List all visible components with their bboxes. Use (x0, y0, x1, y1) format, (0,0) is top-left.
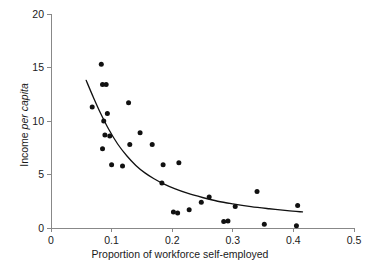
data-point-10 (120, 163, 125, 168)
y-tick-label-4: 20 (32, 8, 44, 20)
x-tick-label-3: 0.3 (225, 234, 240, 246)
data-point-8 (107, 133, 112, 138)
y-tick-label-2: 10 (32, 115, 44, 127)
data-point-28 (294, 223, 299, 228)
x-tick-label-2: 0.2 (165, 234, 180, 246)
scatter-plot: 00.10.20.30.40.5 05101520 Proportion of … (0, 0, 369, 269)
data-point-5 (105, 111, 110, 116)
y-tick-label-3: 15 (32, 61, 44, 73)
data-point-25 (233, 204, 238, 209)
y-tick-labels: 05101520 (32, 8, 44, 234)
y-axis-title: Income per capita (18, 83, 30, 167)
data-point-16 (161, 162, 166, 167)
data-point-15 (159, 181, 164, 186)
y-tick-label-1: 5 (38, 168, 44, 180)
data-points (90, 62, 300, 229)
data-point-27 (262, 222, 267, 227)
axes-group (47, 14, 354, 232)
data-point-6 (100, 146, 105, 151)
chart-figure: 00.10.20.30.40.5 05101520 Proportion of … (0, 0, 369, 269)
data-point-24 (225, 219, 230, 224)
data-point-17 (171, 209, 176, 214)
x-tick-label-1: 0.1 (104, 234, 119, 246)
x-tick-label-5: 0.5 (347, 234, 362, 246)
data-point-4 (101, 119, 106, 124)
data-point-9 (109, 162, 114, 167)
data-point-23 (221, 219, 226, 224)
fit-curve (86, 80, 302, 212)
data-point-3 (104, 82, 109, 87)
x-tick-labels: 00.10.20.30.40.5 (48, 234, 361, 246)
y-tick-label-0: 0 (38, 222, 44, 234)
data-point-20 (187, 207, 192, 212)
x-axis-title: Proportion of workforce self-employed (92, 248, 269, 260)
data-point-18 (175, 211, 180, 216)
data-point-11 (126, 100, 131, 105)
data-point-19 (176, 160, 181, 165)
x-tick-label-0: 0 (48, 234, 54, 246)
y-axis-title-plain: Income (18, 129, 30, 166)
data-point-13 (138, 130, 143, 135)
data-point-22 (207, 194, 212, 199)
y-axis-title-italic: per capita (18, 83, 30, 130)
regression-curve (86, 80, 302, 212)
data-point-21 (199, 200, 204, 205)
data-point-7 (102, 132, 107, 137)
data-point-14 (150, 142, 155, 147)
data-point-26 (255, 189, 260, 194)
x-tick-label-4: 0.4 (286, 234, 301, 246)
data-point-1 (99, 62, 104, 67)
data-point-29 (295, 203, 300, 208)
data-point-0 (90, 105, 95, 110)
data-point-12 (127, 142, 132, 147)
